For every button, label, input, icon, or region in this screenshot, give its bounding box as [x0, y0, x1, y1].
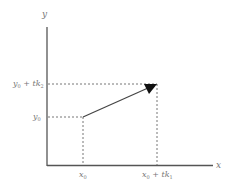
x-axis-label: x — [216, 160, 221, 170]
x0-label: x0 — [79, 170, 87, 180]
y-end-label: y0 + tk2 — [12, 79, 44, 89]
vector-diagram: y x y0 y0 + tk2 x0 x0 + tk1 — [0, 0, 235, 185]
y0-label: y0 — [32, 112, 41, 122]
vector-arrow-shaft — [83, 88, 148, 117]
x-end-label: x0 + tk1 — [142, 170, 173, 180]
y-axis-label: y — [41, 9, 48, 19]
